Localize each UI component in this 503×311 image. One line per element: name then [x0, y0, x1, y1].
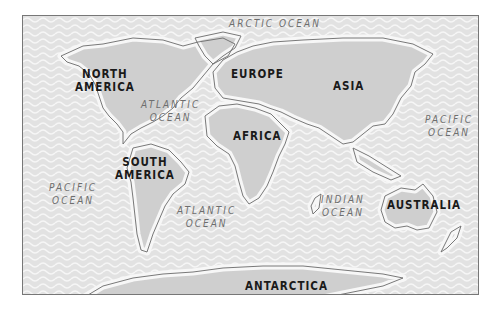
label-pacific-ocean-east: PACIFIC OCEAN — [425, 113, 473, 139]
label-atlantic-ocean-north: ATLANTIC OCEAN — [141, 98, 200, 124]
label-arctic-ocean: ARCTIC OCEAN — [229, 17, 321, 30]
world-map: NORTH AMERICA SOUTH AMERICA EUROPE ASIA … — [22, 15, 479, 295]
label-antarctica: ANTARCTICA — [245, 280, 328, 293]
label-north-america: NORTH AMERICA — [75, 68, 135, 94]
label-south-america: SOUTH AMERICA — [115, 156, 175, 182]
label-pacific-ocean-west: PACIFIC OCEAN — [49, 181, 97, 207]
label-asia: ASIA — [333, 80, 364, 93]
label-indian-ocean: INDIAN OCEAN — [321, 193, 365, 219]
label-europe: EUROPE — [231, 68, 284, 81]
label-atlantic-ocean-south: ATLANTIC OCEAN — [177, 204, 236, 230]
map-graphic — [23, 16, 479, 295]
label-australia: AUSTRALIA — [387, 199, 461, 212]
label-africa: AFRICA — [233, 130, 282, 143]
